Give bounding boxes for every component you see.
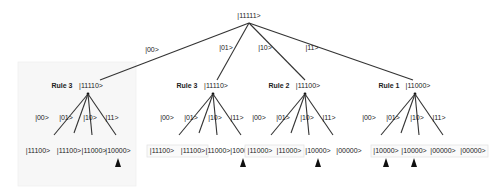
selected-marker-icon bbox=[240, 158, 246, 167]
child-edge-label: |11> bbox=[230, 114, 243, 122]
child-edge-label: |00> bbox=[35, 114, 49, 122]
root-node: |11111> bbox=[237, 12, 260, 20]
root-edge bbox=[249, 23, 305, 80]
rule-label: Rule 1 bbox=[378, 82, 399, 89]
leaf-state-label: |11000> bbox=[82, 147, 107, 155]
child-edge-label: |11> bbox=[432, 114, 445, 122]
child-edge-label: |10> bbox=[83, 114, 97, 122]
diagram-svg: |11111> |00>|01>|10>|11> Rule 3|11110>|0… bbox=[0, 0, 499, 191]
leaf-state-label: |00000> bbox=[336, 147, 361, 155]
root-edge-label: |11> bbox=[305, 44, 318, 52]
child-edge-label: |00> bbox=[252, 114, 266, 122]
child-edge-label: |01> bbox=[184, 114, 198, 122]
level1-edges: |00>|01>|10>|11> bbox=[100, 23, 413, 80]
child-edge-label: |11> bbox=[322, 114, 335, 122]
subtree: Rule 2|11100>|00>|01>|10>|11>|11000>|110… bbox=[245, 82, 362, 167]
leaf-state-label: |00000> bbox=[460, 147, 485, 155]
leaf-state-label: |11000> bbox=[206, 147, 231, 155]
leaf-state-label: |00000> bbox=[430, 147, 455, 155]
rule-label: Rule 2 bbox=[268, 82, 289, 89]
root-edge bbox=[249, 23, 413, 80]
rule-label: Rule 3 bbox=[51, 82, 72, 89]
subtree: Rule 1|11000>|00>|01>|10>|11>|10000>|100… bbox=[362, 82, 488, 167]
root-state-label: |11111> bbox=[237, 12, 260, 20]
child-edge-label: |10> bbox=[208, 114, 222, 122]
leaf-state-label: |11100> bbox=[26, 147, 50, 155]
node-state-label: |11110> bbox=[79, 82, 103, 90]
child-edge-label: |10> bbox=[410, 114, 424, 122]
leaf-state-label: |10000> bbox=[373, 147, 398, 155]
leaf-state-label: |11100> bbox=[181, 147, 205, 155]
selected-marker-icon bbox=[411, 158, 417, 167]
selected-marker-icon bbox=[383, 158, 389, 167]
child-edge-label: |00> bbox=[160, 114, 174, 122]
leaf-state-label: |11000> bbox=[277, 147, 302, 155]
child-edge-label: |01> bbox=[386, 114, 400, 122]
leaf-state-label: |11000> bbox=[248, 147, 273, 155]
child-edge-label: |00> bbox=[362, 114, 376, 122]
node-state-label: |11100> bbox=[296, 82, 320, 90]
node-state-label: |11000> bbox=[406, 82, 431, 90]
root-edge-label: |01> bbox=[219, 44, 233, 52]
leaf-state-label: |10000> bbox=[305, 147, 330, 155]
root-edge-label: |00> bbox=[145, 46, 159, 54]
root-edge bbox=[217, 23, 249, 80]
root-edge bbox=[100, 23, 249, 80]
state-tree-diagram: |11111> |00>|01>|10>|11> Rule 3|11110>|0… bbox=[0, 0, 499, 191]
node-state-label: |11110> bbox=[204, 82, 228, 90]
root-edge-label: |10> bbox=[258, 44, 272, 52]
child-edge-label: |01> bbox=[59, 114, 73, 122]
leaf-state-label: |10000> bbox=[105, 147, 130, 155]
rule-label: Rule 3 bbox=[176, 82, 197, 89]
child-edge-label: |10> bbox=[300, 114, 314, 122]
leaf-state-label: |11100> bbox=[150, 147, 174, 155]
leaf-state-label: |11100> bbox=[57, 147, 81, 155]
child-edge-label: |01> bbox=[276, 114, 290, 122]
child-edge-label: |11> bbox=[105, 114, 118, 122]
subtree: Rule 3|11110>|00>|01>|10>|11>|11100>|111… bbox=[147, 82, 256, 167]
selected-marker-icon bbox=[315, 158, 321, 167]
leaf-state-label: |10000> bbox=[401, 147, 426, 155]
